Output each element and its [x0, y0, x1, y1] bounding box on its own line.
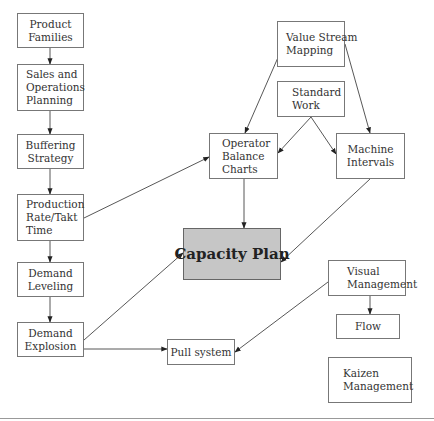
- node-label: Explosion: [25, 340, 77, 353]
- node-label: Value Stream: [286, 31, 357, 44]
- node-label: Management: [347, 278, 417, 291]
- arrow-machine-intervals-to-capacity-plan: [281, 179, 370, 262]
- node-production-rate-takt-time: Production Rate/Takt Time: [17, 194, 84, 241]
- node-operator-balance-charts: Operator Balance Charts: [209, 133, 278, 179]
- node-label: Leveling: [28, 280, 74, 293]
- node-label: Production: [26, 198, 84, 211]
- node-label: Work: [292, 99, 320, 112]
- node-label: Management: [343, 380, 413, 393]
- node-label: Machine: [348, 143, 394, 156]
- arrow-standard-work-to-operator-balance: [278, 117, 311, 153]
- bottom-rule: [0, 418, 434, 419]
- arrow-standard-work-to-machine-intervals: [311, 117, 336, 154]
- node-label: Rate/Takt: [26, 211, 77, 224]
- node-label: Time: [26, 224, 53, 237]
- node-label: Planning: [26, 94, 73, 107]
- node-pull-system: Pull system: [167, 339, 235, 365]
- node-standard-work: Standard Work: [277, 81, 345, 117]
- node-label: Families: [28, 31, 72, 44]
- node-demand-leveling: Demand Leveling: [17, 262, 84, 297]
- node-sales-operations-planning: Sales and Operations Planning: [17, 64, 84, 111]
- arrow-demand-explosion-to-capacity-plan: [84, 253, 183, 340]
- node-label: Intervals: [347, 156, 394, 169]
- node-label: Operator: [222, 137, 270, 150]
- node-label: Sales and: [26, 68, 78, 81]
- node-product-families: Product Families: [17, 13, 84, 48]
- node-label: Capacity Plan: [174, 248, 289, 261]
- node-label: Standard: [292, 86, 341, 99]
- node-label: Operations: [26, 81, 85, 94]
- capacity-plan-diagram: Product Families Sales and Operations Pl…: [0, 0, 434, 421]
- node-buffering-strategy: Buffering Strategy: [17, 134, 84, 169]
- arrow-production-rate-to-operator-balance: [84, 157, 209, 218]
- arrow-value-stream-mapping-to-machine-intervals: [345, 44, 370, 133]
- node-label: Demand: [28, 267, 72, 280]
- node-label: Buffering: [25, 139, 75, 152]
- node-capacity-plan: Capacity Plan: [183, 228, 281, 280]
- node-label: Demand: [28, 327, 72, 340]
- node-label: Charts: [222, 163, 258, 176]
- node-kaizen-management: Kaizen Management: [328, 357, 412, 403]
- node-visual-management: Visual Management: [328, 260, 406, 296]
- node-label: Visual: [347, 265, 380, 278]
- arrow-visual-management-to-pull-system: [235, 282, 328, 352]
- node-demand-explosion: Demand Explosion: [17, 322, 84, 357]
- node-value-stream-mapping: Value Stream Mapping: [277, 21, 345, 67]
- node-label: Product: [30, 18, 72, 31]
- node-label: Pull system: [171, 346, 232, 359]
- node-label: Mapping: [286, 44, 333, 57]
- node-label: Balance: [222, 150, 264, 163]
- node-flow: Flow: [336, 314, 400, 339]
- node-label: Kaizen: [343, 367, 379, 380]
- node-machine-intervals: Machine Intervals: [336, 133, 405, 179]
- node-label: Flow: [355, 320, 381, 333]
- node-label: Strategy: [28, 152, 74, 165]
